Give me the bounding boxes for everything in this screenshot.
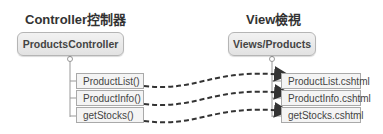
controller-connector-circle <box>68 57 73 62</box>
controller-title: Controller控制器 <box>25 9 126 28</box>
controller-method-productinfo: ProductInfo() <box>76 90 144 106</box>
arrow-productlist <box>144 74 286 87</box>
controller-root-box: ProductsController <box>17 32 124 56</box>
controller-method-productlist: ProductList() <box>76 73 144 89</box>
view-file-getstocks: getStocks.cshtml <box>281 107 361 123</box>
controller-method-getstocks: getStocks() <box>76 107 144 123</box>
view-root-box: Views/Products <box>228 32 316 56</box>
view-title: View檢視 <box>246 9 301 28</box>
arrow-getstocks <box>144 110 286 123</box>
view-file-productinfo: ProductInfo.cshtml <box>281 90 361 106</box>
arrow-productinfo <box>144 92 286 105</box>
view-file-productlist: ProductList.cshtml <box>281 73 361 89</box>
view-connector-circle <box>270 57 275 62</box>
